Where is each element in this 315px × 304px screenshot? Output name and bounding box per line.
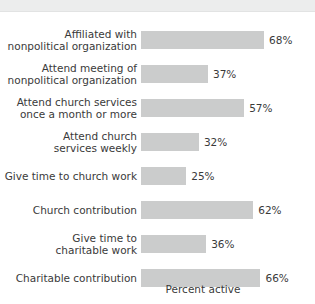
bar-row: Give time to charitable work36% [0,227,315,261]
bar-track: 36% [141,227,315,261]
bar-category-label: Give time to church work [0,159,137,193]
bar-value-label: 68% [264,31,292,49]
bar-category-label: Church contribution [0,193,137,227]
bar [141,167,186,185]
x-axis-label: Percent active [141,283,265,295]
bar-track: 37% [141,57,315,91]
bar [141,235,206,253]
bar-value-label: 36% [206,235,234,253]
bar-value-label: 25% [186,167,214,185]
bar [141,133,199,151]
bar-value-label: 57% [244,99,272,117]
bar-category-label: Attend church services once a month or m… [0,91,137,125]
bar-row: Church contribution62% [0,193,315,227]
bar-category-label: Attend church services weekly [0,125,137,159]
bar-track: 32% [141,125,315,159]
bar-category-label: Affiliated with nonpolitical organizatio… [0,23,137,57]
section-header-title: CITIZENS [0,0,315,1]
bar-chart-plot-area: Affiliated with nonpolitical organizatio… [0,11,315,304]
bar-row: Attend meeting of nonpolitical organizat… [0,57,315,91]
bar-category-label: Attend meeting of nonpolitical organizat… [0,57,137,91]
bar-category-label: Give time to charitable work [0,227,137,261]
bar-row: Attend church services once a month or m… [0,91,315,125]
bar-track: 68% [141,23,315,57]
bar-value-label: 62% [253,201,281,219]
bar-row: Give time to church work25% [0,159,315,193]
bar-value-label: 37% [208,65,236,83]
bar-track: 57% [141,91,315,125]
bar [141,65,208,83]
chart-figure: CITIZENS Affiliated with nonpolitical or… [0,0,315,304]
bar-row: Affiliated with nonpolitical organizatio… [0,23,315,57]
bar-row: Attend church services weekly32% [0,125,315,159]
bar [141,201,253,219]
bar [141,31,264,49]
bar-category-label: Charitable contribution [0,261,137,295]
bar-track: 25% [141,159,315,193]
bar-value-label: 32% [199,133,227,151]
bar [141,99,244,117]
bar-track: 62% [141,193,315,227]
